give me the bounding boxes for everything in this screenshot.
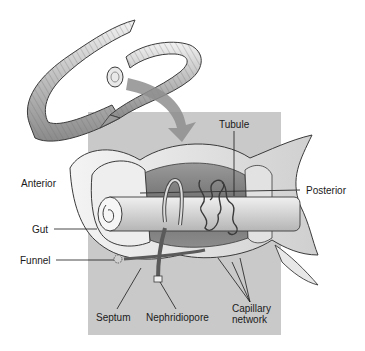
label-septum: Septum: [96, 312, 130, 323]
label-tubule: Tubule: [219, 119, 249, 130]
label-gut: Gut: [32, 224, 48, 235]
label-posterior: Posterior: [306, 185, 346, 196]
label-funnel: Funnel: [20, 255, 51, 266]
label-anterior: Anterior: [21, 178, 56, 189]
diagram-stage: Tubule Anterior Posterior Gut Funnel Sep…: [0, 0, 365, 351]
earthworm-illustration: [0, 0, 365, 351]
label-nephridiopore: Nephridiopore: [146, 312, 209, 323]
label-capillary-network: Capillary network: [232, 303, 271, 325]
